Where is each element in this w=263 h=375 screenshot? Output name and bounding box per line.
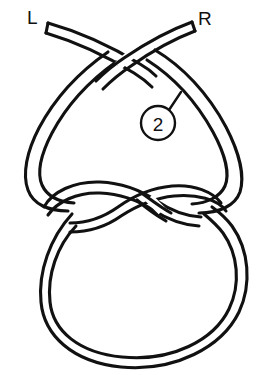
twist-left-lower-edge [48,193,199,226]
left-end-cap [46,23,48,33]
bottom-loop-inner-edge [49,214,236,358]
callout-2: 2 [141,92,181,140]
callout-leader-line [169,92,181,110]
right-end-cap [192,22,195,31]
callout-number: 2 [153,114,164,135]
right-end-upper-edge [96,22,192,81]
knot-diagram-figure: 2 L R [0,0,263,375]
right-end-label: R [198,9,212,28]
central-twist-rope [44,182,226,232]
left-end-label: L [27,8,38,27]
knot-illustration: 2 [0,0,263,375]
